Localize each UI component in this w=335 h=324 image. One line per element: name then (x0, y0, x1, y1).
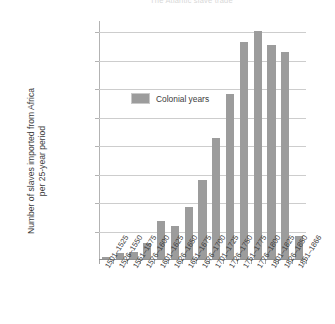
y-tick-mark (95, 203, 99, 204)
y-axis-title: Number of slaves imported from Africa pe… (26, 56, 48, 266)
legend-swatch-colonial-years (131, 93, 150, 104)
legend: Colonial years (131, 93, 209, 104)
legend-label-colonial-years: Colonial years (156, 94, 209, 104)
plot-area (99, 21, 306, 260)
gridline (99, 32, 306, 33)
y-tick-mark (95, 232, 99, 233)
y-tick-mark (95, 32, 99, 33)
bar (254, 31, 262, 259)
x-tick-mark (99, 260, 100, 264)
y-tick-mark (95, 175, 99, 176)
y-tick-mark (95, 146, 99, 147)
y-tick-mark (95, 61, 99, 62)
chart-title: The Atlantic slave trade (150, 0, 330, 4)
bar (240, 42, 248, 259)
y-tick-mark (95, 89, 99, 90)
y-axis-line (99, 21, 100, 260)
bar (267, 45, 275, 259)
bar (281, 52, 289, 259)
y-tick-mark (95, 118, 99, 119)
chart-figure: The Atlantic slave trade Number of slave… (0, 0, 335, 324)
